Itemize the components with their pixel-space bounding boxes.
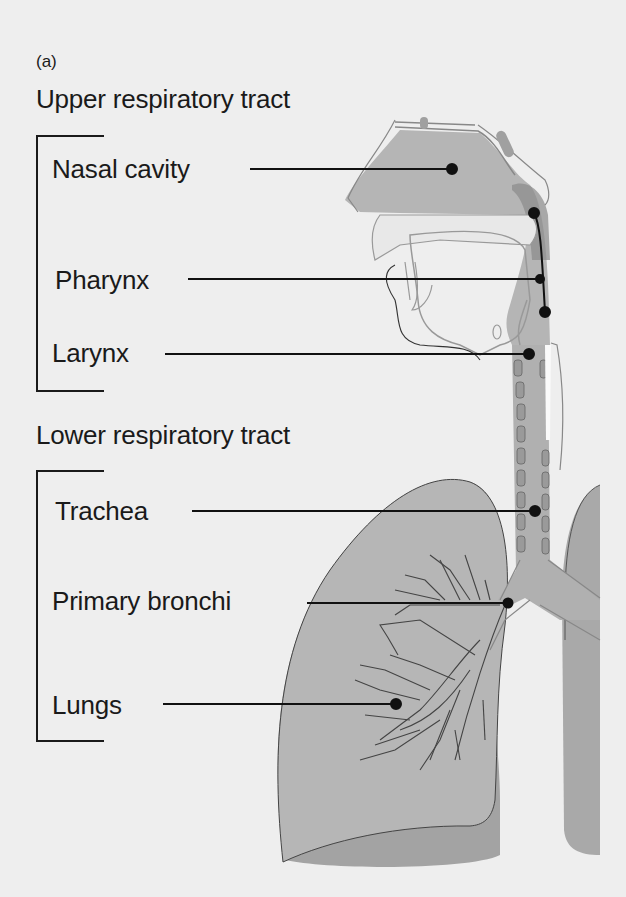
- head-cross-section: [345, 117, 550, 360]
- respiratory-anatomy-illustration: [0, 0, 626, 897]
- right-lung: [562, 485, 600, 855]
